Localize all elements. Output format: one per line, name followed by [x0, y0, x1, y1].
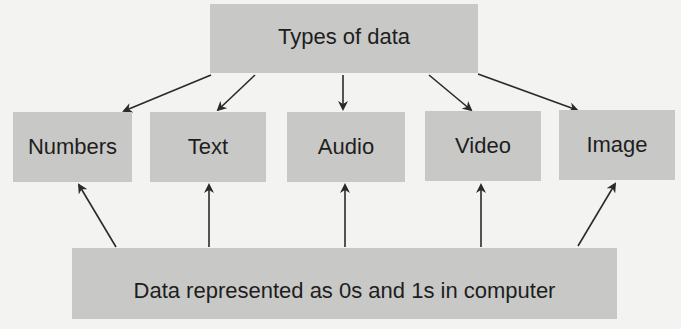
- type-node-label: Text: [188, 134, 228, 160]
- diagram-canvas: Types of data Numbers Text Audio Video I…: [0, 0, 681, 329]
- base-node-label: Data represented as 0s and 1s in compute…: [134, 278, 556, 304]
- type-node-label: Numbers: [28, 134, 117, 160]
- type-node-label: Image: [586, 132, 647, 158]
- arrow-base-to-image: [578, 184, 615, 246]
- type-node-numbers: Numbers: [13, 112, 132, 182]
- arrow-root-to-text: [218, 75, 255, 110]
- root-node-label: Types of data: [278, 24, 410, 50]
- type-node-text: Text: [150, 112, 266, 182]
- base-node-binary-representation: Data represented as 0s and 1s in compute…: [72, 248, 617, 319]
- arrow-root-to-image: [478, 74, 577, 110]
- root-node-types-of-data: Types of data: [210, 4, 478, 73]
- arrow-root-to-numbers: [124, 75, 211, 111]
- type-node-video: Video: [425, 111, 541, 181]
- type-node-label: Audio: [318, 134, 374, 160]
- type-node-audio: Audio: [287, 112, 405, 182]
- type-node-label: Video: [455, 133, 511, 159]
- arrow-root-to-video: [429, 75, 471, 110]
- arrow-base-to-numbers: [79, 185, 116, 247]
- type-node-image: Image: [559, 110, 675, 180]
